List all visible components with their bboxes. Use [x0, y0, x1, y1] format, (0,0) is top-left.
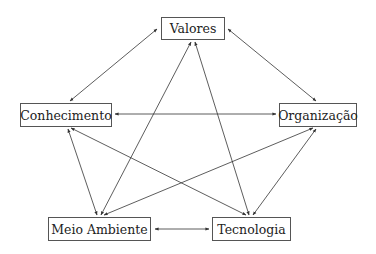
node-label: Organização: [278, 108, 358, 123]
node-conhecimento: Conhecimento: [20, 103, 112, 127]
node-meio-ambiente: Meio Ambiente: [48, 217, 151, 241]
node-tecnologia: Tecnologia: [212, 217, 291, 241]
relationship-diagram: Valores Conhecimento Organização Meio Am…: [0, 0, 376, 254]
edge-organizacao-tecnologia: [253, 129, 316, 215]
node-organizacao: Organização: [279, 103, 357, 127]
node-label: Conhecimento: [20, 108, 111, 123]
edge-conhecimento-tecnologia: [71, 128, 246, 215]
node-valores: Valores: [161, 17, 225, 40]
edge-organizacao-meio_ambiente: [104, 128, 313, 215]
edge-valores-tecnologia: [195, 42, 249, 215]
edge-valores-meio_ambiente: [101, 42, 191, 215]
edge-valores-conhecimento: [70, 29, 157, 101]
edge-conhecimento-meio_ambiente: [68, 129, 97, 215]
node-label: Meio Ambiente: [51, 222, 147, 237]
node-label: Tecnologia: [217, 222, 285, 237]
edge-valores-organizacao: [228, 29, 316, 101]
node-label: Valores: [170, 21, 217, 36]
